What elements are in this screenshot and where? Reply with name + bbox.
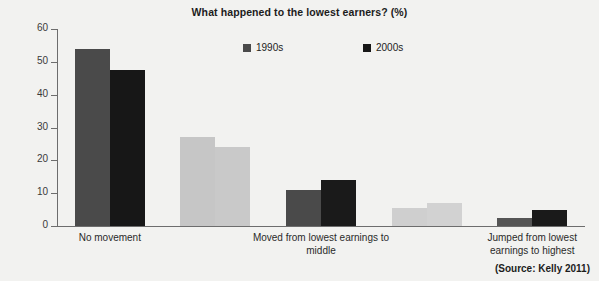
y-axis-tick [51,226,57,227]
category-label-line: Jumped from lowest [442,232,599,245]
category-label-line: earnings to highest [442,245,599,258]
y-axis-label: 40 [4,88,48,99]
bar-2000s [532,210,567,226]
bar-chart: What happened to the lowest earners? (%)… [0,0,599,281]
y-axis-label: 50 [4,55,48,66]
y-axis-label: 0 [4,219,48,230]
bar-1990s [497,218,532,226]
bar-2000s [110,70,145,226]
category-label-line: No movement [20,232,200,245]
x-axis-category-label: Jumped from lowestearnings to highest [442,232,599,257]
chart-title: What happened to the lowest earners? (%) [0,6,599,18]
category-label-line: Moved from lowest earnings to [231,232,411,245]
category-label-line: middle [231,245,411,258]
bar-group [180,29,250,226]
bar-group [75,29,145,226]
source-note: (Source: Kelly 2011) [495,263,590,274]
bar-1990s [392,208,427,226]
plot-area [57,29,585,226]
y-axis-label: 30 [4,121,48,132]
y-axis-label: 60 [4,22,48,33]
bar-group [392,29,462,226]
bar-2000s [215,147,250,226]
bar-2000s [321,180,356,226]
y-axis-label: 10 [4,186,48,197]
bar-group [497,29,567,226]
x-axis-category-label: Moved from lowest earnings tomiddle [231,232,411,257]
bar-1990s [75,49,110,226]
bar-group [286,29,356,226]
x-axis-category-label: No movement [20,232,200,245]
y-axis-label: 20 [4,153,48,164]
bar-2000s [427,203,462,226]
bar-1990s [286,190,321,226]
bar-1990s [180,137,215,226]
x-axis-line [57,226,585,227]
